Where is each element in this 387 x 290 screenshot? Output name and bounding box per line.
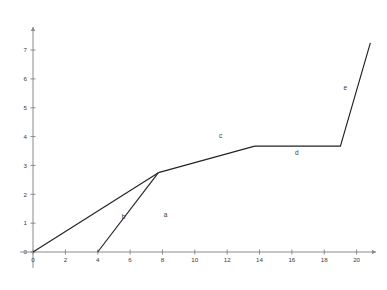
- x-tick-label-2: 2: [64, 256, 68, 263]
- x-tick-label-8: 8: [161, 256, 165, 263]
- y-tick-label-6: 6: [24, 75, 28, 82]
- y-tick-label-1: 1: [24, 219, 28, 226]
- segment-label-d: d: [295, 149, 299, 156]
- segment-label-a: a: [164, 211, 168, 218]
- chart-background: [0, 0, 387, 290]
- y-tick-label-7: 7: [24, 46, 28, 53]
- x-tick-label-0: 0: [31, 256, 35, 263]
- line-chart: 01234567 02468101214161820 abcde: [0, 0, 387, 290]
- x-tick-label-20: 20: [353, 256, 360, 263]
- segment-label-b: b: [122, 213, 126, 220]
- x-tick-label-6: 6: [128, 256, 132, 263]
- segment-label-e: e: [343, 84, 347, 91]
- y-tick-label-3: 3: [24, 162, 28, 169]
- y-tick-label-2: 2: [24, 191, 28, 198]
- y-tick-label-4: 4: [24, 133, 28, 140]
- y-tick-label-5: 5: [24, 104, 28, 111]
- chart-container: 01234567 02468101214161820 abcde: [0, 0, 387, 290]
- x-tick-label-16: 16: [288, 256, 295, 263]
- x-tick-label-18: 18: [321, 256, 328, 263]
- x-tick-label-14: 14: [256, 256, 263, 263]
- x-tick-label-10: 10: [191, 256, 198, 263]
- x-tick-label-4: 4: [96, 256, 100, 263]
- x-tick-label-12: 12: [224, 256, 231, 263]
